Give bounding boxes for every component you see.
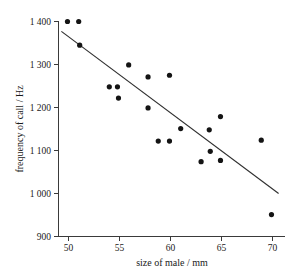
regression-line xyxy=(61,31,278,193)
data-point xyxy=(259,138,264,143)
x-axis-ticks xyxy=(69,237,273,242)
data-point xyxy=(115,84,120,89)
chart-canvas: 1 400 1 300 1 200 1 100 1 000 900 50 55 … xyxy=(0,0,301,271)
data-point xyxy=(218,158,223,163)
y-tick-label: 1 200 xyxy=(30,103,52,113)
data-point xyxy=(208,149,213,154)
data-point xyxy=(199,159,204,164)
y-axis-ticks xyxy=(54,22,59,237)
x-axis-title: size of male / mm xyxy=(136,257,208,268)
data-point xyxy=(77,43,82,48)
data-point xyxy=(145,105,150,110)
axis-lines xyxy=(59,22,286,237)
data-point xyxy=(178,126,183,131)
data-points-group xyxy=(65,19,274,217)
data-point xyxy=(107,84,112,89)
x-tick-label: 50 xyxy=(64,243,74,253)
y-tick-label: 1 400 xyxy=(30,17,52,27)
x-tick-label: 70 xyxy=(268,243,278,253)
y-tick-label: 1 300 xyxy=(30,60,52,70)
data-point xyxy=(167,138,172,143)
x-tick-label: 55 xyxy=(115,243,125,253)
data-point xyxy=(218,114,223,119)
data-point xyxy=(145,74,150,79)
data-point xyxy=(269,212,274,217)
y-axis-tick-labels: 1 400 1 300 1 200 1 100 1 000 900 xyxy=(30,17,52,242)
data-point xyxy=(116,95,121,100)
data-point xyxy=(167,73,172,78)
x-axis-tick-labels: 50 55 60 65 70 xyxy=(64,243,278,253)
y-tick-label: 900 xyxy=(37,232,52,242)
scatter-plot-figure: 1 400 1 300 1 200 1 100 1 000 900 50 55 … xyxy=(0,0,301,271)
x-tick-label: 60 xyxy=(166,243,176,253)
data-point xyxy=(65,19,70,24)
y-tick-label: 1 100 xyxy=(30,146,52,156)
y-axis-title: frequency of call / Hz xyxy=(14,85,25,173)
x-tick-label: 65 xyxy=(217,243,227,253)
data-point xyxy=(76,19,81,24)
data-point xyxy=(126,62,131,67)
data-point xyxy=(207,127,212,132)
y-tick-label: 1 000 xyxy=(30,189,52,199)
data-point xyxy=(156,138,161,143)
